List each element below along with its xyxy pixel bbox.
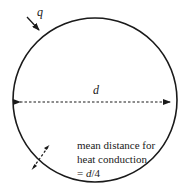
heat-conduction-diagram: q d mean distance for heat conduction = … — [0, 0, 187, 194]
annotation-line-2: heat conduction — [77, 153, 147, 165]
heat-flux-label: q — [37, 5, 43, 19]
diameter-label: d — [93, 83, 100, 97]
arrowhead-icon — [32, 164, 38, 170]
annotation-line-3: = d/4 — [77, 167, 101, 179]
annotation-line-1: mean distance for — [77, 139, 156, 151]
arrowhead-icon — [44, 145, 50, 150]
